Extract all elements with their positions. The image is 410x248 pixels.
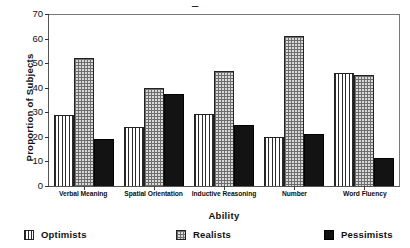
x-axis-category-labels: Verbal MeaningSpatial OrientationInducti… — [48, 190, 400, 198]
legend-label: Pessimists — [341, 229, 393, 240]
bar-group — [259, 15, 329, 186]
chart-legend: OptimistsRealistsPessimists — [24, 229, 392, 240]
y-tick-label: 10 — [32, 156, 43, 166]
y-tick-label: 0 — [38, 181, 43, 191]
y-tick-label: 40 — [32, 83, 43, 93]
bar-group — [119, 15, 189, 186]
bar-group — [189, 15, 259, 186]
bar-realists[interactable] — [284, 36, 304, 186]
bar-optimists[interactable] — [124, 127, 144, 186]
bar-group — [329, 15, 399, 186]
legend-swatch-optimists-icon — [24, 230, 34, 240]
legend-item-pessimists[interactable]: Pessimists — [324, 229, 393, 240]
y-tick-label: 70 — [32, 9, 43, 19]
legend-label: Optimists — [41, 229, 87, 240]
x-category-label: Number — [259, 190, 329, 198]
bar-pessimists[interactable] — [304, 134, 324, 186]
y-tick-label: 20 — [32, 132, 43, 142]
bar-realists[interactable] — [74, 58, 94, 186]
x-category-label: Spatial Orientation — [118, 190, 188, 198]
bar-pessimists[interactable] — [164, 94, 184, 186]
bar-optimists[interactable] — [334, 73, 354, 186]
legend-swatch-pessimists-icon — [324, 230, 334, 240]
y-tick-label: 50 — [32, 58, 43, 68]
bar-realists[interactable] — [214, 71, 234, 186]
x-axis-title: Ability — [48, 210, 400, 221]
legend-item-realists[interactable]: Realists — [176, 229, 324, 240]
chart-title-cropped: Type — [0, 0, 410, 7]
y-tick-label: 60 — [32, 34, 43, 44]
legend-swatch-realists-icon — [176, 230, 186, 240]
bar-group — [49, 15, 119, 186]
bar-pessimists[interactable] — [374, 158, 394, 186]
legend-label: Realists — [193, 229, 231, 240]
y-tick-label: 30 — [32, 107, 43, 117]
bar-optimists[interactable] — [264, 137, 284, 186]
y-tick-mark — [45, 186, 49, 187]
bar-optimists[interactable] — [54, 115, 74, 186]
bar-pessimists[interactable] — [234, 125, 254, 186]
bar-optimists[interactable] — [194, 114, 214, 186]
x-category-label: Verbal Meaning — [48, 190, 118, 198]
x-category-label: Word Fluency — [330, 190, 400, 198]
bar-realists[interactable] — [144, 88, 164, 186]
bar-chart-figure: Type Proportion of Subjects 010203040506… — [0, 0, 410, 248]
x-category-label: Inductive Reasoning — [189, 190, 259, 198]
chart-title-text: Type — [192, 5, 218, 7]
bar-realists[interactable] — [354, 75, 374, 186]
plot-area: 010203040506070 — [48, 14, 400, 187]
bar-pessimists[interactable] — [94, 139, 114, 186]
bar-groups — [49, 15, 399, 186]
legend-item-optimists[interactable]: Optimists — [24, 229, 176, 240]
